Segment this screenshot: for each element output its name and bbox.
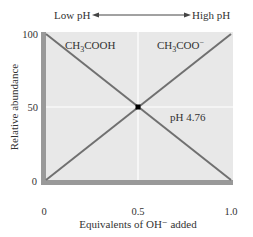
pka-annotation: pH 4.76 xyxy=(170,111,206,123)
x-axis-label: Equivalents of OH⁻ added xyxy=(79,218,197,230)
high-ph-label: High pH xyxy=(192,9,230,21)
x-tick-0-5: 0.5 xyxy=(131,206,144,217)
x-axis xyxy=(41,180,233,185)
y-tick-100: 100 xyxy=(22,29,38,40)
y-tick-50: 50 xyxy=(28,102,39,113)
y-axis-label: Relative abundance xyxy=(8,64,20,151)
y-tick-0: 0 xyxy=(32,176,37,187)
arrow-left-icon xyxy=(92,13,99,18)
titration-chart: Low pH High pH CH3COOH CH3COO− pH 4.76 1… xyxy=(0,0,253,237)
x-tick-1-0: 1.0 xyxy=(224,206,237,217)
arrow-right-icon xyxy=(184,13,191,18)
midpoint-marker xyxy=(136,105,141,110)
y-axis xyxy=(41,32,46,184)
x-tick-0: 0 xyxy=(41,206,46,217)
low-ph-label: Low pH xyxy=(54,9,90,21)
